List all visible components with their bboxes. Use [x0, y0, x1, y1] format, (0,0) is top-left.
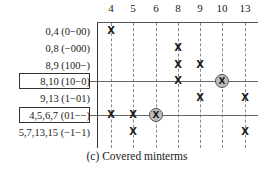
- column-header-minterm: 8: [175, 2, 181, 14]
- x-mark-icon: X: [241, 127, 249, 137]
- x-mark-icon: X: [107, 26, 115, 36]
- circled-x-mark-icon: X: [149, 108, 163, 122]
- x-mark-icon: X: [129, 127, 137, 137]
- x-mark-icon: X: [174, 43, 182, 53]
- row-label-implicant: 8,9 (100−): [46, 60, 90, 71]
- row-label-implicant: 5,7,13,15 (−1−1): [19, 127, 90, 138]
- chart-vertical-axis: [97, 22, 98, 148]
- row-label-implicant: 0,8 (−000): [46, 43, 90, 54]
- x-mark-icon: X: [174, 76, 182, 86]
- column-header-minterm: 9: [197, 2, 203, 14]
- column-guide-line: [200, 23, 201, 148]
- column-header-minterm: 6: [153, 2, 159, 14]
- column-header-minterm: 4: [108, 2, 114, 14]
- row-label-implicant: 9,13 (1−01): [40, 93, 90, 104]
- row-label-implicant: 4,5,6,7 (01−−): [29, 110, 90, 121]
- column-guide-line: [111, 23, 112, 148]
- x-mark-icon: X: [129, 110, 137, 120]
- x-mark-icon: X: [174, 60, 182, 70]
- caption: (c) Covered minterms: [0, 150, 274, 162]
- essential-row-line: [90, 115, 258, 116]
- column-guide-line: [156, 23, 157, 148]
- x-mark-icon: X: [241, 93, 249, 103]
- column-header-minterm: 5: [130, 2, 136, 14]
- row-label-implicant: 0,4 (0−00): [46, 26, 90, 37]
- row-label-implicant: 8,10 (10−0): [40, 76, 90, 87]
- x-mark-icon: X: [196, 60, 204, 70]
- column-header-minterm: 13: [240, 2, 251, 14]
- x-mark-icon: X: [107, 110, 115, 120]
- column-header-minterm: 10: [217, 2, 228, 14]
- circled-x-mark-icon: X: [215, 74, 229, 88]
- prime-implicant-chart: 456891013 0,4 (0−00)0,8 (−000)8,9 (100−)…: [0, 0, 274, 173]
- x-mark-icon: X: [196, 93, 204, 103]
